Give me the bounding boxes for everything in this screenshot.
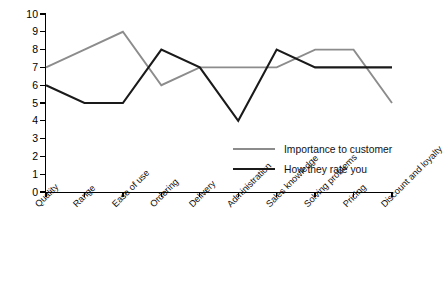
y-tick-8 (40, 49, 45, 50)
y-tick-2 (40, 156, 45, 157)
legend-item-importance-to-customer: Importance to customer (233, 141, 392, 157)
x-axis-label-range: Range (71, 183, 97, 209)
series-line-importance-to-customer (46, 32, 392, 103)
legend-swatch-importance-to-customer (233, 148, 275, 150)
legend-swatch-how-they-rate-you (233, 168, 275, 170)
y-axis-label-8: 8 (4, 44, 38, 54)
y-tick-1 (40, 174, 45, 175)
legend-item-how-they-rate-you: How they rate you (233, 161, 392, 177)
y-axis-label-0: 0 (4, 187, 38, 197)
y-axis-label-5: 5 (4, 98, 38, 108)
y-axis-label-7: 7 (4, 62, 38, 72)
y-tick-5 (40, 102, 45, 103)
y-tick-6 (40, 85, 45, 86)
legend-label-importance-to-customer: Importance to customer (284, 144, 392, 155)
y-axis-label-10: 10 (4, 9, 38, 19)
x-axis-label-pricing: Pricing (341, 182, 368, 209)
x-axis-line (45, 192, 392, 193)
x-axis-label-ease-of-use: Ease of use (110, 168, 151, 209)
y-axis-label-4: 4 (4, 115, 38, 125)
legend-label-how-they-rate-you: How they rate you (284, 164, 367, 175)
y-axis-line (45, 13, 46, 193)
y-tick-10 (40, 13, 45, 14)
y-axis-label-6: 6 (4, 80, 38, 90)
y-tick-3 (40, 138, 45, 139)
y-tick-9 (40, 31, 45, 32)
x-axis-category-labels: QualityRangeEase of useOrderingDeliveryA… (0, 196, 426, 286)
y-tick-7 (40, 67, 45, 68)
y-axis-label-9: 9 (4, 26, 38, 36)
series-line-how-they-rate-you (46, 50, 392, 121)
y-tick-4 (40, 120, 45, 121)
chart-legend: Importance to customer How they rate you (233, 141, 392, 181)
y-axis-label-3: 3 (4, 133, 38, 143)
x-axis-label-delivery: Delivery (187, 179, 218, 210)
y-axis-label-2: 2 (4, 151, 38, 161)
y-axis-label-1: 1 (4, 169, 38, 179)
